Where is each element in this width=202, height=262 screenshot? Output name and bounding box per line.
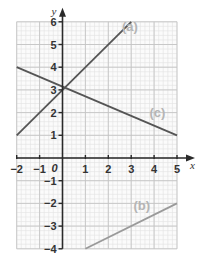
y-tick-label: −1 (44, 175, 57, 187)
x-tick-label: 1 (82, 163, 88, 175)
y-tick-label: −4 (44, 243, 57, 255)
y-tick-label: 1 (50, 129, 56, 141)
y-tick-label: −2 (44, 197, 57, 209)
y-tick-label: 3 (50, 84, 56, 96)
series-label-c: (c) (150, 105, 166, 120)
series-label-b: (b) (133, 198, 150, 213)
x-tick-label: −2 (10, 163, 23, 175)
x-tick-label: 4 (151, 163, 158, 175)
x-tick-label: 2 (105, 163, 111, 175)
y-tick-label: 6 (50, 16, 56, 28)
series-label-a: (a) (122, 19, 138, 34)
y-tick-label: 4 (50, 61, 57, 73)
y-tick-label: −3 (44, 220, 57, 232)
y-tick-label: 2 (50, 107, 56, 119)
x-tick-label: 3 (128, 163, 134, 175)
x-tick-label: 5 (174, 163, 180, 175)
origin-label: 0 (52, 162, 59, 174)
y-tick-label: 5 (50, 39, 56, 51)
y-axis-arrow-icon (59, 8, 66, 17)
x-tick-label: −1 (33, 163, 46, 175)
line-chart: x y 0 −2−112345−4−3−2−1123456 (a)(b)(c) (0, 0, 202, 262)
x-axis-label: x (189, 159, 195, 171)
